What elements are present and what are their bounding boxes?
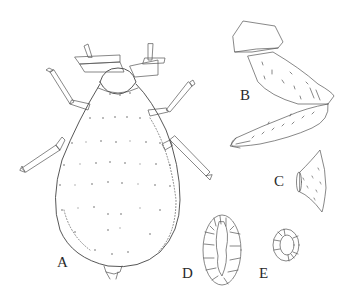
panel-b-leg — [230, 21, 334, 148]
panel-label-a: A — [57, 255, 68, 270]
panel-label-b: B — [240, 88, 250, 103]
panel-c-cone — [297, 150, 327, 212]
panel-label-d: D — [182, 266, 193, 281]
panel-a-insect-body — [20, 44, 212, 279]
dorsal-dots — [59, 92, 171, 255]
panel-label-c: C — [274, 174, 284, 189]
panel-d-oval-plate — [203, 215, 241, 285]
panel-e-ring — [273, 229, 299, 261]
insect-illustration: A B C D E — [0, 0, 353, 295]
panel-label-e: E — [259, 266, 268, 281]
